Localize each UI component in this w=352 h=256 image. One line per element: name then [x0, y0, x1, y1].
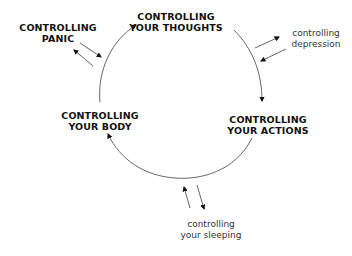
satellite-sleeping: controlling your sleeping: [172, 219, 250, 241]
satellite-sleeping-line1: controlling: [172, 219, 250, 230]
cycle-diagram: CONTROLLING YOUR THOUGHTS CONTROLLING YO…: [0, 0, 352, 256]
arrow-to-depression: [255, 37, 279, 48]
arrow-body-to-thoughts: [100, 25, 136, 102]
satellite-depression: controlling depression: [284, 28, 348, 50]
node-body-line1: CONTROLLING: [55, 110, 145, 121]
node-panic: CONTROLLING PANIC: [14, 22, 102, 44]
node-actions: CONTROLLING YOUR ACTIONS: [218, 114, 318, 136]
satellite-sleeping-line2: your sleeping: [172, 230, 250, 241]
node-panic-line1: CONTROLLING: [14, 22, 102, 33]
satellite-depression-line1: controlling: [284, 28, 348, 39]
arrow-from-sleeping: [184, 187, 190, 208]
arrow-from-depression: [261, 49, 286, 61]
node-body-line2: YOUR BODY: [55, 121, 145, 132]
arrow-actions-to-body: [108, 134, 252, 178]
arrow-to-sleeping: [197, 185, 204, 209]
node-thoughts-line2: YOUR THOUGHTS: [120, 22, 232, 33]
node-thoughts: CONTROLLING YOUR THOUGHTS: [120, 11, 232, 33]
node-thoughts-line1: CONTROLLING: [120, 11, 232, 22]
satellite-depression-line2: depression: [284, 39, 348, 50]
node-actions-line2: YOUR ACTIONS: [218, 125, 318, 136]
arrow-from-panic-loop: [74, 50, 93, 66]
arrow-to-panic-loop: [80, 43, 101, 57]
node-body: CONTROLLING YOUR BODY: [55, 110, 145, 132]
arrow-thoughts-to-actions: [234, 30, 262, 101]
node-actions-line1: CONTROLLING: [218, 114, 318, 125]
node-panic-line2: PANIC: [14, 33, 102, 44]
